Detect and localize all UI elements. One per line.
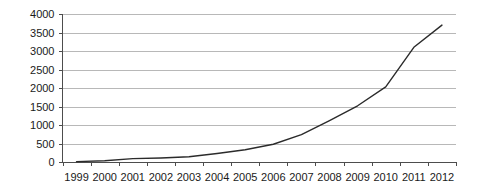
y-axis-tick-label: 1000 [30,119,54,131]
x-axis-tick-label: 2004 [205,171,229,183]
line-chart: 05001000150020002500300035004000 1999200… [0,0,478,192]
x-axis-tick-label: 2006 [261,171,285,183]
x-axis-tick-label: 2002 [149,171,173,183]
x-axis-tick-label: 2000 [92,171,116,183]
chart-canvas: 05001000150020002500300035004000 1999200… [0,0,478,192]
x-axis-tick-label: 2008 [317,171,341,183]
x-axis-tick-label: 2012 [430,171,454,183]
y-axis-tick-marks [59,15,63,163]
y-axis-tick-label: 2000 [30,82,54,94]
gridlines [63,15,457,145]
y-axis-tick-labels: 05001000150020002500300035004000 [30,8,54,168]
y-axis-tick-label: 3500 [30,27,54,39]
x-axis-tick-label: 1999 [64,171,88,183]
x-axis-tick-labels: 1999200020012002200320042005200620072008… [64,171,454,183]
y-axis-tick-label: 3000 [30,45,54,57]
x-axis-tick-label: 2010 [373,171,397,183]
y-axis-tick-label: 500 [36,138,54,150]
y-axis-tick-label: 2500 [30,64,54,76]
x-axis-tick-label: 2007 [289,171,313,183]
x-axis-tick-label: 2011 [402,171,426,183]
x-axis-tick-label: 2009 [345,171,369,183]
x-axis-tick-label: 2001 [121,171,145,183]
y-axis-tick-label: 4000 [30,8,54,20]
x-axis-tick-label: 2005 [233,171,257,183]
x-axis-tick-label: 2003 [177,171,201,183]
y-axis-tick-label: 0 [48,156,54,168]
y-axis-tick-label: 1500 [30,101,54,113]
data-series-line [77,25,442,162]
